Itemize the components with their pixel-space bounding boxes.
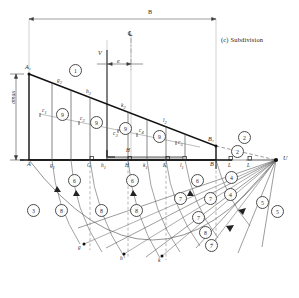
centroid-label-c4: c4 xyxy=(139,128,144,135)
centroid-label-c1: c1 xyxy=(42,108,47,115)
step-number-7b: 7 xyxy=(192,211,205,224)
step-number-9b: 9 xyxy=(90,116,103,129)
arc-label-h: h xyxy=(120,256,123,261)
point-A1-dot xyxy=(28,73,31,76)
arc-label-g: g xyxy=(78,245,81,250)
diagram-canvas: B ℄ V e σmax (c) Subdivision A₁ B₁ A B U… xyxy=(0,0,299,298)
step-number-9d: 9 xyxy=(153,130,166,143)
figure-caption: (c) Subdivision xyxy=(221,36,263,43)
point-B1-dot xyxy=(215,145,218,148)
base-label-H-upper: H xyxy=(126,148,130,153)
top-edge-label-h2: h2 xyxy=(86,89,91,96)
step-number-7a: 7 xyxy=(174,192,187,205)
step-number-1: 1 xyxy=(69,64,82,77)
dimension-line-sigma-max xyxy=(10,74,24,160)
step-number-6a: 6 xyxy=(68,174,81,187)
step-number-2b: 2 xyxy=(231,145,244,158)
point-A-label: A xyxy=(27,161,31,167)
base-label-G: G xyxy=(87,163,91,168)
base-label-h1: h1 xyxy=(101,163,106,170)
step-number-6b: 6 xyxy=(126,174,139,187)
centerline-symbol: ℄ xyxy=(128,31,133,38)
point-B-label: B xyxy=(210,161,214,167)
dimension-line-e xyxy=(97,63,143,66)
base-label-H: H xyxy=(125,163,129,168)
force-hook xyxy=(107,150,115,157)
point-A1-label: A₁ xyxy=(25,64,31,70)
top-edge-label-k2: k2 xyxy=(121,103,126,110)
step-number-8b: 8 xyxy=(95,204,108,217)
centroid-label-c5: c5 xyxy=(178,140,183,147)
construction-verticals xyxy=(29,19,216,160)
centroid-label-c2: c2 xyxy=(80,116,85,123)
step-number-8a: 8 xyxy=(55,204,68,217)
step-number-8d: 8 xyxy=(199,226,212,239)
pole-dot xyxy=(274,158,278,162)
arc-label-k: k xyxy=(158,258,160,263)
base-label-L: L xyxy=(228,163,231,168)
step-number-5b: 5 xyxy=(271,205,284,218)
centroid-label-c3: c3 xyxy=(113,131,118,138)
step-number-9a: 9 xyxy=(56,108,69,121)
diagram-vector-layer xyxy=(0,0,299,298)
base-label-K: K xyxy=(163,163,167,168)
point-B1-label: B₁ xyxy=(208,136,214,142)
sigma-max-label: σmax xyxy=(10,91,16,104)
base-label-L2: L xyxy=(247,163,250,168)
eccentricity-label-e: e xyxy=(117,58,120,64)
dashed-extension-to-pole xyxy=(216,146,276,160)
thales-arc xyxy=(29,160,276,240)
base-label-k1: k1 xyxy=(143,163,148,170)
step-number-6c: 6 xyxy=(191,174,204,187)
dimension-line-B xyxy=(29,17,216,20)
base-label-l1: l1 xyxy=(180,163,184,170)
top-edge-label-l2: l2 xyxy=(163,118,167,125)
step-number-3: 3 xyxy=(27,204,40,217)
step-number-8c: 8 xyxy=(130,204,143,217)
resultant-label-V: V xyxy=(98,50,102,56)
step-number-7d: 7 xyxy=(205,239,218,252)
step-number-5a: 5 xyxy=(256,196,269,209)
base-label-g1: g1 xyxy=(50,163,55,170)
dimension-label-B: B xyxy=(148,9,152,15)
chord-lines xyxy=(84,160,276,256)
point-U-label: U xyxy=(283,155,287,161)
step-number-9c: 9 xyxy=(119,122,132,135)
step-number-7c: 7 xyxy=(204,192,217,205)
step-number-4a: 4 xyxy=(225,171,238,184)
step-number-2a: 2 xyxy=(238,131,251,144)
arc-arrowheads xyxy=(54,186,194,196)
top-edge-label-g2: g2 xyxy=(57,78,62,85)
transfer-arcs xyxy=(52,160,250,258)
step-number-4b: 4 xyxy=(224,188,237,201)
